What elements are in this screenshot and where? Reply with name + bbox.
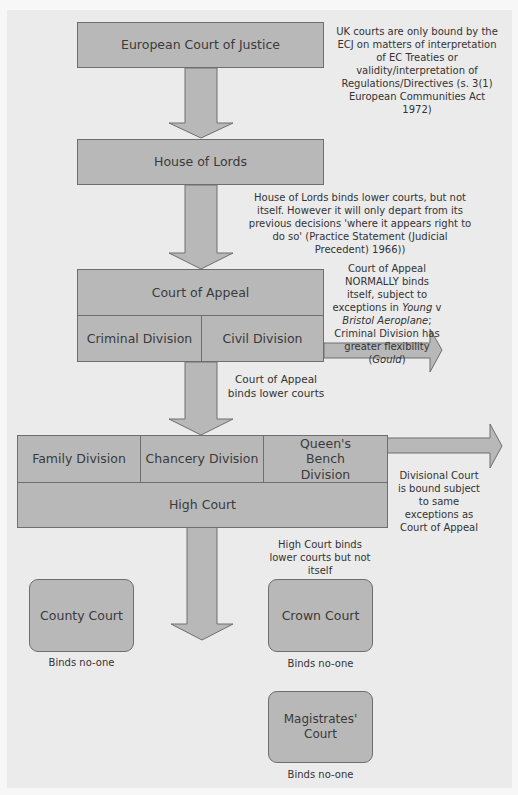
court-of-appeal-lower-note: Court of Appeal binds lower courts bbox=[222, 373, 330, 400]
arrow-hc-down bbox=[171, 527, 233, 640]
county-court-note: Binds no-one bbox=[29, 656, 134, 669]
crown-court-label: Crown Court bbox=[282, 608, 360, 624]
family-division-box: Family Division bbox=[17, 435, 141, 483]
note-text: ) bbox=[402, 354, 406, 365]
civil-division-box: Civil Division bbox=[201, 315, 324, 362]
county-court-label: County Court bbox=[40, 608, 123, 624]
high-court-label: High Court bbox=[169, 497, 236, 513]
civil-division-label: Civil Division bbox=[222, 331, 302, 347]
court-of-appeal-label: Court of Appeal bbox=[152, 285, 250, 301]
magistrates-court-box: Magistrates' Court bbox=[268, 691, 373, 763]
queens-bench-division-box: Queen's Bench Division bbox=[263, 435, 388, 483]
case-name: Young bbox=[402, 302, 432, 313]
case-name: Gould bbox=[372, 354, 401, 365]
note-text: v bbox=[432, 302, 441, 313]
divisional-court-note: Divisional Court is bound subject to sam… bbox=[396, 469, 482, 534]
magistrates-court-note: Binds no-one bbox=[268, 768, 373, 781]
queens-bench-division-label: Queen's Bench Division bbox=[284, 436, 367, 483]
court-of-appeal-self-note: Court of Appeal NORMALLY binds itself, s… bbox=[332, 262, 442, 366]
arrow-ecj-to-hol bbox=[169, 68, 233, 138]
arrow-hol-to-coa bbox=[169, 185, 233, 269]
ecj-label: European Court of Justice bbox=[121, 37, 280, 53]
arrow-hc-divisional bbox=[387, 424, 502, 468]
criminal-division-box: Criminal Division bbox=[77, 315, 202, 362]
ecj-box: European Court of Justice bbox=[77, 22, 324, 68]
county-court-box: County Court bbox=[29, 579, 134, 652]
family-division-label: Family Division bbox=[32, 451, 126, 467]
house-of-lords-note: House of Lords binds lower courts, but n… bbox=[246, 191, 474, 256]
chancery-division-label: Chancery Division bbox=[146, 451, 259, 467]
court-of-appeal-box: Court of Appeal bbox=[77, 269, 324, 316]
high-court-box: High Court bbox=[17, 482, 388, 528]
criminal-division-label: Criminal Division bbox=[87, 331, 193, 347]
case-name: Bristol Aeroplane bbox=[342, 315, 428, 326]
crown-court-box: Crown Court bbox=[268, 579, 373, 652]
magistrates-court-label: Magistrates' Court bbox=[269, 712, 372, 742]
ecj-note: UK courts are only bound by the ECJ on m… bbox=[336, 25, 498, 116]
house-of-lords-box: House of Lords bbox=[77, 139, 324, 185]
crown-court-note: Binds no-one bbox=[268, 657, 373, 670]
chancery-division-box: Chancery Division bbox=[140, 435, 264, 483]
high-court-note: High Court binds lower courts but not it… bbox=[268, 538, 372, 577]
house-of-lords-label: House of Lords bbox=[154, 154, 247, 170]
